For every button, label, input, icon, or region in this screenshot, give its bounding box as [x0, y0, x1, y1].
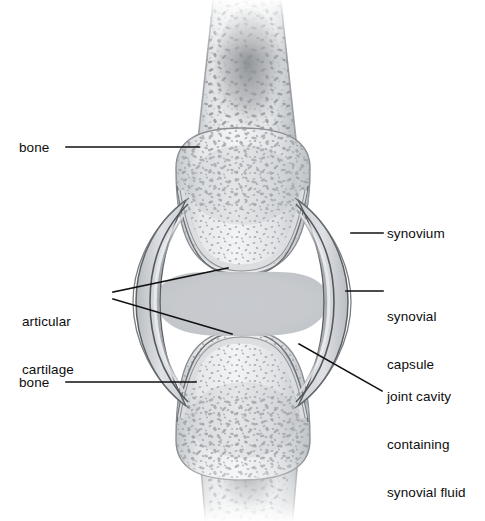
label-bone-top: bone [19, 140, 49, 156]
joint-cavity [152, 272, 332, 336]
label-articular-cartilage: articular cartilage [22, 282, 74, 410]
diagram-canvas: bone bone articular cartilage synovium s… [0, 0, 485, 521]
label-joint-cavity: joint cavity containing synovial fluid [387, 357, 466, 521]
label-joint-cavity-line1: joint cavity [387, 389, 466, 405]
bottom-fade [180, 452, 320, 521]
top-fade [170, 0, 320, 56]
label-articular-cartilage-line2: cartilage [22, 362, 74, 378]
label-articular-cartilage-line1: articular [22, 314, 74, 330]
label-joint-cavity-line2: containing [387, 437, 466, 453]
label-synovium: synovium [387, 226, 445, 242]
label-synovial-capsule-line1: synovial [387, 309, 437, 325]
label-joint-cavity-line3: synovial fluid [387, 485, 466, 501]
